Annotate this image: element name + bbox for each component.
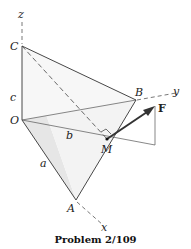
label-B: B bbox=[135, 87, 143, 98]
label-C: C bbox=[10, 41, 18, 52]
x-axis bbox=[77, 202, 103, 225]
label-a: a bbox=[40, 158, 47, 169]
figure-caption: Problem 2/109 bbox=[0, 234, 191, 245]
point-M bbox=[105, 137, 108, 140]
label-c: c bbox=[10, 92, 16, 103]
label-b: b bbox=[66, 130, 73, 141]
label-A: A bbox=[67, 203, 75, 214]
label-y: y bbox=[173, 86, 179, 97]
tetrahedron-diagram bbox=[0, 0, 191, 249]
label-F: F bbox=[158, 103, 166, 114]
label-z: z bbox=[18, 9, 24, 20]
label-x: x bbox=[101, 222, 107, 233]
label-M: M bbox=[101, 144, 112, 155]
label-O: O bbox=[10, 115, 19, 126]
